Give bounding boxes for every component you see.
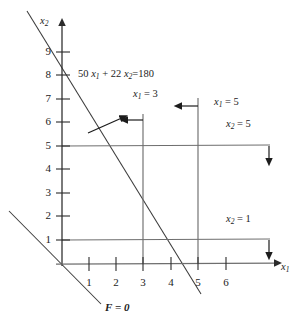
y-tick-label-1: 1 xyxy=(37,234,51,245)
x-tick-label-2: 2 xyxy=(109,277,123,288)
objective-line-f-equals-zero xyxy=(9,211,101,304)
line-x2-equals-1 xyxy=(62,239,270,240)
y-tick-label-8: 8 xyxy=(37,69,51,80)
annotation-x1-equals-5: x1 = 5 xyxy=(214,97,239,108)
line-x2-equals-5 xyxy=(62,145,270,146)
x-tick-label-3: 3 xyxy=(136,277,150,288)
y-axis-label: x2 xyxy=(40,16,48,27)
x-tick-label-1: 1 xyxy=(82,277,96,288)
y-tick-label-2: 2 xyxy=(37,210,51,221)
y-tick-label-3: 3 xyxy=(37,187,51,198)
annotation-x2-equals-1: x2 = 1 xyxy=(226,214,251,225)
y-tick-label-5: 5 xyxy=(37,140,51,151)
x-tick-label-6: 6 xyxy=(219,277,233,288)
y-tick-label-6: 6 xyxy=(37,116,51,127)
x-axis-label: x1 xyxy=(281,262,289,273)
graph-figure: x2 x1 9 8 7 6 5 4 3 2 1 1 2 3 4 5 6 50 x… xyxy=(0,0,307,332)
x-tick-label-5: 5 xyxy=(191,277,205,288)
y-tick-label-4: 4 xyxy=(37,163,51,174)
annotation-objective-f-equals-zero: F = 0 xyxy=(105,302,129,313)
y-tick-label-7: 7 xyxy=(37,93,51,104)
annotation-x2-equals-5: x2 = 5 xyxy=(226,119,251,130)
annotation-constraint-equation: 50 x1 + 22 x2=180 xyxy=(78,69,154,80)
y-tick-label-9: 9 xyxy=(37,46,51,57)
constraint-line-50x1-22x2 xyxy=(27,11,201,294)
y-axis-ticks xyxy=(56,52,70,240)
annotation-x1-equals-3: x1 = 3 xyxy=(133,89,158,100)
x-tick-label-4: 4 xyxy=(164,277,178,288)
